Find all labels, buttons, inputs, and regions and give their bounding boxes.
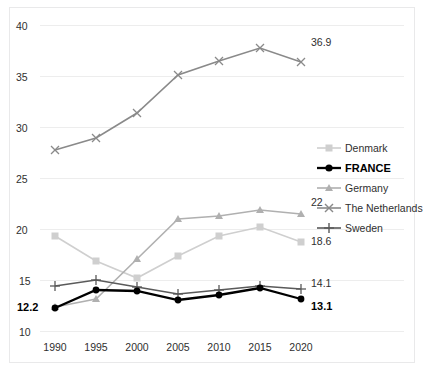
series-france xyxy=(52,285,305,312)
legend-marker-triangle-icon xyxy=(316,181,342,195)
x-tick-2005: 2005 xyxy=(158,341,198,353)
label-france-2020: 13.1 xyxy=(311,300,332,312)
legend-marker-square-icon xyxy=(316,141,342,155)
series-denmark xyxy=(52,224,305,282)
legend-marker-diamond-icon xyxy=(316,161,342,175)
legend-label-sweden: Sweden xyxy=(345,222,383,234)
legend-item-germany[interactable]: Germany xyxy=(316,178,423,198)
legend-marker-plus-icon xyxy=(316,221,342,235)
x-tick-2010: 2010 xyxy=(199,341,239,353)
x-tick-1990: 1990 xyxy=(35,341,75,353)
label-france-1990: 12.2 xyxy=(17,301,38,313)
legend-item-sweden[interactable]: Sweden xyxy=(316,218,423,238)
line-chart: 40 35 30 25 20 15 10 xyxy=(0,0,424,378)
series-sweden xyxy=(50,275,306,299)
legend-label-france: FRANCE xyxy=(345,162,391,174)
legend-label-germany: Germany xyxy=(345,182,388,194)
legend-label-denmark: Denmark xyxy=(345,142,388,154)
legend-item-denmark[interactable]: Denmark xyxy=(316,138,423,158)
legend-item-the-netherlands[interactable]: The Netherlands xyxy=(316,198,423,218)
label-sweden-2020: 14.1 xyxy=(311,277,331,289)
x-tick-2015: 2015 xyxy=(240,341,280,353)
legend-marker-x-icon xyxy=(316,201,342,215)
x-tick-1995: 1995 xyxy=(76,341,116,353)
x-tick-2020: 2020 xyxy=(281,341,321,353)
series-the-netherlands xyxy=(51,44,305,154)
legend-label-the-netherlands: The Netherlands xyxy=(345,202,423,214)
label-netherlands-2020: 36.9 xyxy=(311,36,331,48)
chart-legend: Denmark FRANCE Germany Th xyxy=(316,138,423,238)
x-tick-2000: 2000 xyxy=(117,341,157,353)
legend-item-france[interactable]: FRANCE xyxy=(316,158,423,178)
